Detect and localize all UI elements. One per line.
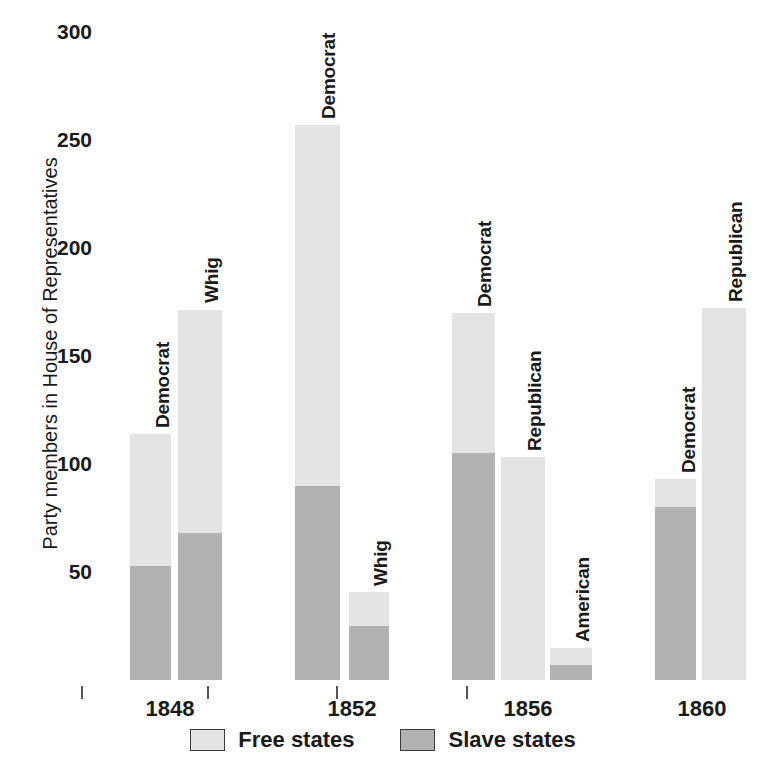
bar-1852-whig[interactable] [349, 592, 389, 680]
bar-1848-whig[interactable] [178, 310, 222, 680]
bar-segment-slave [452, 453, 495, 680]
bar-label-1856-democrat: Democrat [474, 221, 496, 307]
bar-segment-free [349, 592, 389, 626]
bar-1856-american[interactable] [550, 648, 592, 680]
bar-segment-free [550, 648, 592, 665]
bar-segment-free [452, 313, 495, 453]
plot-area: Democrat Whig Democrat Whig Democrat Rep… [0, 0, 766, 768]
bar-segment-slave [349, 626, 389, 680]
bar-label-1848-democrat: Democrat [152, 342, 174, 428]
bar-label-1856-republican: Republican [524, 351, 546, 451]
bar-segment-slave [655, 507, 696, 680]
x-label-1852: 1852 [328, 696, 377, 722]
bar-segment-free [178, 310, 222, 533]
bar-label-1856-american: American [572, 557, 594, 642]
bar-1860-democrat[interactable] [655, 479, 696, 680]
bar-segment-free [655, 479, 696, 507]
bar-label-1852-democrat: Democrat [318, 33, 340, 119]
bar-1852-democrat[interactable] [295, 125, 340, 680]
bar-segment-free [501, 457, 545, 680]
x-label-1860: 1860 [678, 696, 727, 722]
bar-segment-slave [178, 533, 222, 680]
x-tick-mark [81, 686, 83, 699]
bar-label-1852-whig: Whig [370, 540, 392, 586]
legend-item-slave-states[interactable]: Slave states [400, 727, 575, 753]
legend-item-free-states[interactable]: Free states [190, 727, 354, 753]
bar-1856-democrat[interactable] [452, 313, 495, 680]
bar-1860-republican[interactable] [702, 308, 746, 680]
legend-swatch-free-icon [190, 729, 225, 751]
bar-segment-slave [130, 566, 171, 680]
legend-label-free-states: Free states [238, 727, 354, 753]
bar-segment-slave [295, 486, 340, 680]
chart-root: Party members in House of Representative… [0, 0, 766, 768]
bar-segment-free [702, 308, 746, 680]
bar-segment-free [295, 125, 340, 486]
bar-label-1848-whig: Whig [201, 257, 223, 303]
bar-1856-republican[interactable] [501, 457, 545, 680]
legend-label-slave-states: Slave states [448, 727, 575, 753]
bar-label-1860-republican: Republican [725, 202, 747, 302]
x-tick-mark [207, 686, 209, 699]
bar-label-1860-democrat: Democrat [678, 387, 700, 473]
x-tick-mark [466, 686, 468, 699]
legend-swatch-slave-icon [400, 729, 435, 751]
bar-segment-slave [550, 665, 592, 680]
bar-1848-democrat[interactable] [130, 434, 171, 680]
bar-segment-free [130, 434, 171, 566]
x-label-1856: 1856 [504, 696, 553, 722]
x-label-1848: 1848 [146, 696, 195, 722]
legend: Free states Slave states [0, 727, 766, 753]
